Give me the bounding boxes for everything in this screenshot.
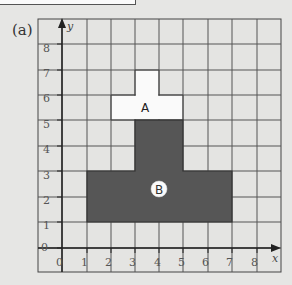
svg-text:2: 2 (105, 256, 112, 269)
svg-text:6: 6 (43, 92, 50, 105)
svg-text:4: 4 (154, 256, 161, 269)
x-tick-labels: 0 1 2 3 4 5 6 7 8 (56, 256, 258, 269)
svg-text:0: 0 (56, 256, 63, 269)
svg-text:3: 3 (129, 256, 136, 269)
svg-text:7: 7 (43, 67, 50, 80)
svg-text:1: 1 (43, 219, 50, 232)
svg-text:5: 5 (43, 118, 50, 131)
y-tick-labels: 8 7 6 5 4 3 2 1 0 (41, 42, 50, 254)
svg-text:6: 6 (202, 256, 209, 269)
x-axis-name: x (272, 252, 279, 265)
y-axis-name: y (66, 20, 74, 33)
svg-text:3: 3 (43, 169, 50, 182)
shape-a-label: A (141, 101, 150, 115)
svg-text:0: 0 (41, 241, 48, 254)
svg-text:8: 8 (251, 256, 258, 269)
svg-text:1: 1 (81, 256, 88, 269)
svg-text:4: 4 (43, 143, 50, 156)
svg-text:7: 7 (226, 256, 233, 269)
coordinate-grid: 8 7 6 5 4 3 2 1 0 0 1 2 3 4 5 6 7 8 y x … (0, 0, 292, 285)
svg-text:5: 5 (178, 256, 185, 269)
svg-text:8: 8 (43, 42, 50, 55)
svg-text:2: 2 (43, 194, 50, 207)
shape-b-label: B (155, 183, 163, 197)
